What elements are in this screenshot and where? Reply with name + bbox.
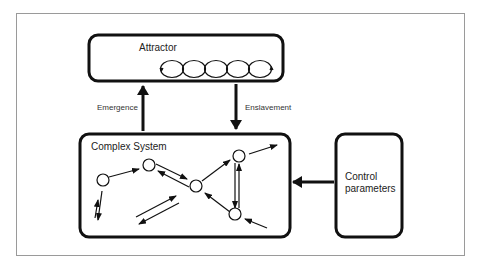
control-label-line2: parameters — [345, 183, 396, 194]
diagram-canvas — [0, 0, 478, 271]
enslavement-label: Enslavement — [245, 103, 291, 112]
attractor-box — [89, 35, 283, 81]
complex-system-label: Complex System — [91, 141, 167, 152]
attractor-label: Attractor — [139, 42, 177, 53]
control-label-line1: Control — [345, 171, 377, 182]
emergence-label: Emergence — [97, 103, 138, 112]
